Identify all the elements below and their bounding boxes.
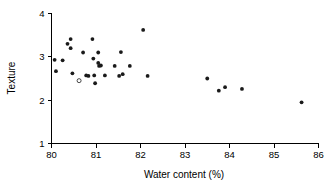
y-tick-label: 2	[39, 95, 44, 106]
data-point	[99, 64, 103, 68]
y-tick-label: 4	[39, 8, 44, 19]
x-tick-label: 85	[269, 149, 280, 160]
y-axis-title: Texture	[6, 61, 17, 94]
y-axis-ticks: 1234	[39, 8, 51, 149]
data-point	[93, 81, 97, 85]
x-tick-label: 82	[135, 149, 146, 160]
data-point	[146, 74, 150, 78]
x-tick-label: 80	[46, 149, 57, 160]
data-point	[69, 46, 73, 50]
data-points	[53, 28, 304, 104]
data-point	[91, 57, 95, 61]
x-tick-label: 84	[224, 149, 235, 160]
data-point	[61, 58, 65, 62]
x-axis-ticks: 80818283848586	[46, 144, 324, 160]
data-point	[113, 64, 117, 68]
data-point-open	[77, 79, 81, 83]
data-point	[300, 100, 304, 104]
x-tick-label: 83	[180, 149, 191, 160]
data-point	[103, 74, 107, 78]
scatter-plot-figure: 1234 80818283848586 Water content (%) Te…	[0, 0, 333, 182]
data-point	[91, 37, 95, 41]
data-point	[66, 42, 70, 46]
data-point	[205, 77, 209, 81]
data-point	[69, 37, 73, 41]
data-point	[119, 50, 123, 54]
y-tick-label: 1	[39, 138, 44, 149]
data-point	[71, 71, 75, 75]
data-point	[223, 85, 227, 89]
x-axis-title: Water content (%)	[144, 169, 224, 180]
plot-canvas: 1234 80818283848586 Water content (%) Te…	[0, 0, 333, 182]
x-tick-label: 86	[313, 149, 324, 160]
data-point	[217, 89, 221, 93]
data-point	[117, 74, 121, 78]
data-point	[92, 74, 96, 78]
axes: 1234 80818283848586	[39, 8, 324, 160]
data-point	[128, 64, 132, 68]
data-point	[141, 28, 145, 32]
data-point	[53, 58, 57, 62]
data-point	[96, 51, 100, 55]
data-point	[81, 51, 85, 55]
data-point	[240, 87, 244, 91]
data-point	[87, 74, 91, 78]
y-tick-label: 3	[39, 51, 44, 62]
data-point	[121, 72, 125, 76]
x-tick-label: 81	[91, 149, 102, 160]
data-point	[54, 69, 58, 73]
